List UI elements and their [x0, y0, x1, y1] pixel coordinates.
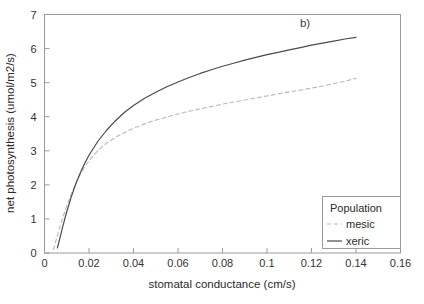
y-tick-label: 7 — [30, 9, 36, 21]
x-tick-label: 0 — [41, 257, 47, 269]
x-tick-label: 0.02 — [78, 257, 99, 269]
x-tick-label: 0.04 — [123, 257, 144, 269]
x-tick-label: 0.12 — [301, 257, 322, 269]
y-axis-title: net photosynthesis (umol/m2/s) — [4, 53, 16, 213]
y-tick-label: 6 — [30, 43, 36, 55]
legend: Population mesicxeric — [323, 197, 401, 249]
x-axis-title: stomatal conductance (cm/s) — [148, 278, 295, 290]
chart-figure: 00.020.040.060.080.10.120.140.16 0123456… — [0, 0, 424, 304]
chart-canvas: 00.020.040.060.080.10.120.140.16 0123456… — [0, 0, 424, 304]
y-tick-label: 2 — [30, 179, 36, 191]
legend-label-xeric: xeric — [346, 235, 370, 247]
legend-label-mesic: mesic — [346, 218, 375, 230]
x-tick-label: 0.06 — [167, 257, 188, 269]
x-tick-label: 0.1 — [259, 257, 274, 269]
y-tick-label: 3 — [30, 145, 36, 157]
panel-label: b) — [300, 17, 310, 29]
x-tick-label: 0.14 — [345, 257, 366, 269]
x-axis-tick-labels: 00.020.040.060.080.10.120.140.16 — [41, 257, 411, 269]
x-tick-label: 0.16 — [390, 257, 411, 269]
legend-title: Population — [330, 202, 382, 214]
x-tick-label: 0.08 — [212, 257, 233, 269]
y-tick-label: 1 — [30, 213, 36, 225]
y-tick-label: 5 — [30, 77, 36, 89]
y-tick-label: 4 — [30, 111, 36, 123]
y-tick-label: 0 — [30, 247, 36, 259]
